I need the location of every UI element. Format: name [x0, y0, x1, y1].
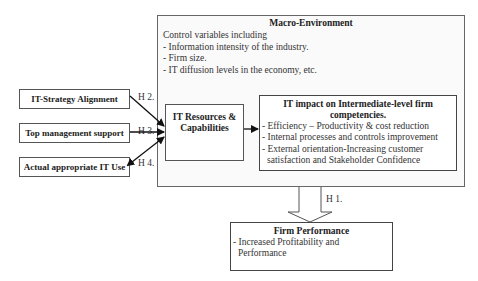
arrow-h4 [132, 137, 164, 162]
arrow-h2 [130, 96, 164, 126]
diagram-arrows [0, 0, 478, 281]
arrow-h1-hollow [288, 187, 332, 222]
